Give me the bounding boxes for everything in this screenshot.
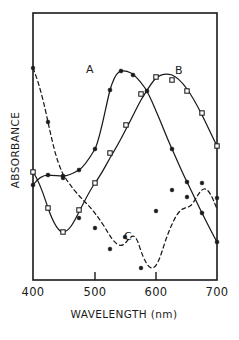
curve-c-label: C [124,230,132,243]
y-axis-title: ABSORBANCE [9,112,21,189]
x-tick-label-700: 700 [206,285,229,299]
curve-c-marker [200,181,204,185]
x-tick-label-500: 500 [84,285,107,299]
curve-b-marker [200,111,204,115]
x-tick-label-600: 600 [145,285,168,299]
curve-b-marker [46,206,50,210]
curve-b-marker [139,92,143,96]
curve-a-marker [170,147,174,151]
curve-b-marker [31,170,35,174]
curve-c-marker [31,66,35,70]
curve-b-marker [108,151,112,155]
curve-a-marker [46,173,50,177]
curve-b-marker [154,75,158,79]
curve-b-marker [124,123,128,127]
curve-c-marker [154,209,158,213]
curve-c-marker [46,120,50,124]
curve-c-marker [139,266,143,270]
curve-b-label: B [175,64,183,77]
curve-b-marker [93,181,97,185]
curve-a-marker [93,147,97,151]
curve-a-marker [145,89,149,93]
x-axis-title: WAVELENGTH (nm) [71,308,178,320]
curve-a-label: A [86,63,94,76]
curve-c-marker [93,226,97,230]
curve-a-marker [77,168,81,172]
x-tick-label-400: 400 [22,285,45,299]
curve-b-path [33,74,217,232]
curve-b-marker [185,89,189,93]
curve-c-marker [108,247,112,251]
chart-canvas: A B C 400 500 600 700 WAVELENGTH (nm) AB… [0,0,239,340]
curve-c-marker [77,216,81,220]
curve-a-marker [215,240,219,244]
curve-a-marker [108,88,112,92]
series-b-group [31,74,219,234]
curve-c-marker [215,196,219,200]
curve-a-marker [31,183,35,187]
curve-a-marker [185,180,189,184]
curve-b-marker [77,208,81,212]
curve-c-marker [185,195,189,199]
curve-b-marker [215,144,219,148]
curve-b-marker [170,78,174,82]
curve-a-path [33,71,217,242]
curve-a-marker [131,73,135,77]
curve-a-marker [119,69,123,73]
curve-b-marker [61,230,65,234]
curve-a-marker [200,211,204,215]
curve-a-marker [61,174,65,178]
absorbance-spectra-figure: A B C 400 500 600 700 WAVELENGTH (nm) AB… [0,0,239,340]
curve-c-marker [170,188,174,192]
